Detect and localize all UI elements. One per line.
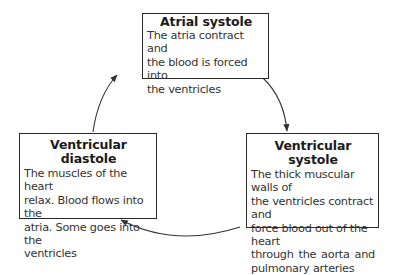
node-description: The thick muscular walls of the ventricl…: [251, 168, 375, 275]
text-line-justified: through the aorta and: [251, 248, 375, 261]
text-line: the ventricles contract and: [251, 195, 375, 222]
text-line: The muscles of the heart: [24, 167, 153, 194]
node-title: Ventricular systole: [251, 139, 375, 167]
text-line: The atria contract and: [147, 29, 265, 56]
node-title: Ventricular diastole: [24, 138, 153, 166]
word: aorta: [321, 248, 350, 261]
word: through: [251, 248, 294, 261]
node-description: The atria contract and the blood is forc…: [147, 29, 265, 96]
text-line: ventricles: [24, 247, 153, 260]
arrow-ventricular-diastole-to-atrial: [93, 75, 117, 132]
node-title: Atrial systole: [147, 15, 265, 29]
text-line: The thick muscular walls of: [251, 168, 375, 195]
text-line: the blood is forced into: [147, 56, 265, 83]
node-ventricular-systole: Ventricular systole The thick muscular w…: [246, 133, 379, 228]
arrow-atrial-to-ventricular-systole: [263, 78, 287, 131]
node-description: The muscles of the heart relax. Blood fl…: [24, 167, 153, 261]
text-line: relax. Blood flows into the: [24, 194, 153, 221]
text-line: the ventricles: [147, 83, 265, 96]
node-atrial-systole: Atrial systole The atria contract and th…: [142, 13, 269, 79]
word: and: [354, 248, 375, 261]
text-line: force blood out of the heart: [251, 222, 375, 249]
node-ventricular-diastole: Ventricular diastole The muscles of the …: [19, 133, 157, 219]
word: the: [298, 248, 316, 261]
text-line: pulmonary arteries: [251, 262, 375, 275]
text-line: atria. Some goes into the: [24, 221, 153, 248]
